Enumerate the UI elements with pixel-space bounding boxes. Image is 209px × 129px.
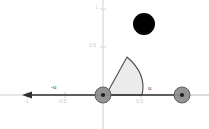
shaded-sector[interactable] [106, 57, 143, 95]
vector-label-u: u [148, 85, 151, 91]
vector-label-minus-u: -u [51, 84, 56, 90]
y-tick-label-0point5: 0.5 [89, 43, 96, 48]
origin-point-dot [101, 93, 105, 97]
u-endpoint-dot [180, 93, 184, 97]
filled-disk[interactable] [133, 13, 155, 35]
applet-canvas-root: 1 0.5 -1 -0.5 0.5 -u u [0, 0, 209, 129]
y-tick-label-1: 1 [95, 5, 98, 10]
x-tick-label-minus0point5: -0.5 [58, 99, 67, 104]
geometry-canvas[interactable] [0, 0, 209, 129]
x-tick-label-minus1: -1 [24, 99, 28, 104]
x-tick-label-0point5: 0.5 [136, 99, 143, 104]
